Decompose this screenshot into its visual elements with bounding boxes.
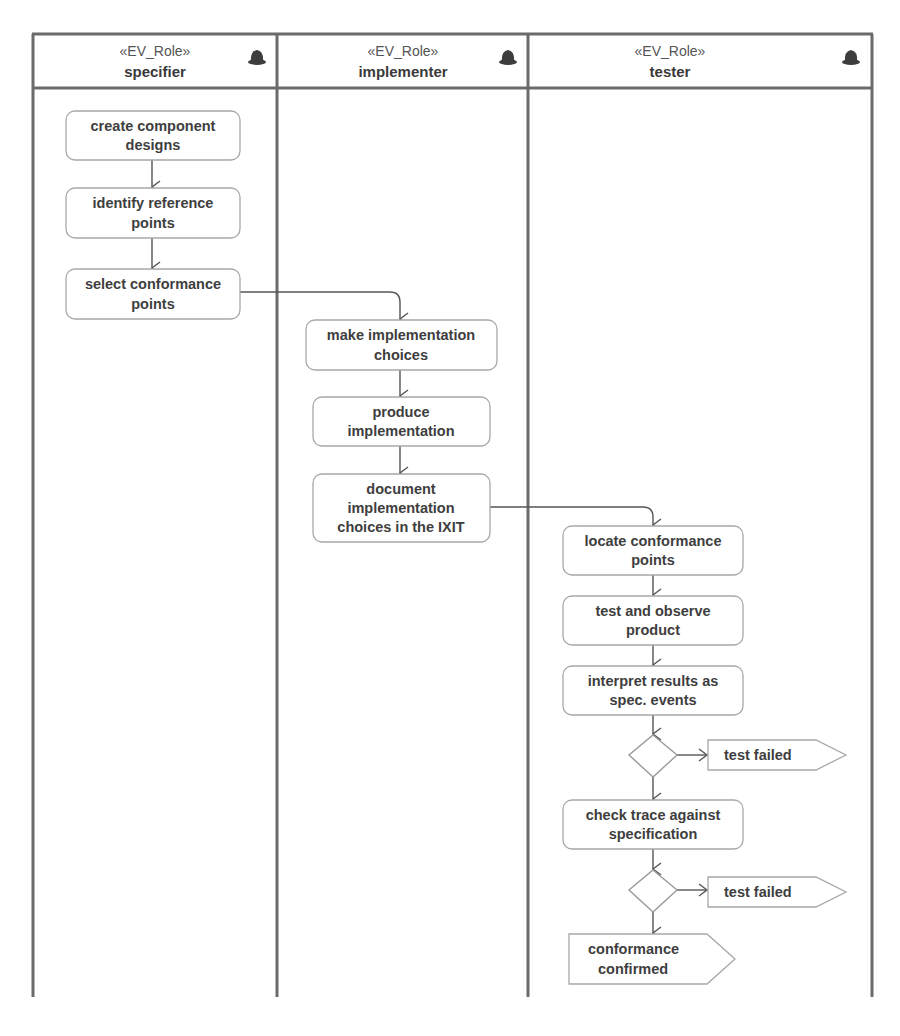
- lane-title: specifier: [124, 63, 186, 80]
- lane-header-tester: «EV_Role» tester: [635, 43, 860, 80]
- signal-conformance-confirmed[interactable]: conformance confirmed: [569, 934, 735, 984]
- svg-text:points: points: [131, 215, 175, 231]
- lane-header-implementer: «EV_Role» implementer: [358, 43, 517, 80]
- svg-text:points: points: [631, 552, 675, 568]
- lane-stereotype: «EV_Role»: [120, 43, 191, 59]
- svg-text:produce: produce: [372, 404, 429, 420]
- action-document-implementation-choices[interactable]: document implementation choices in the I…: [313, 474, 490, 542]
- svg-text:specification: specification: [609, 826, 698, 842]
- action-produce-implementation[interactable]: produce implementation: [313, 397, 490, 446]
- lane-title: implementer: [358, 63, 447, 80]
- role-hat-icon: [499, 50, 517, 65]
- svg-text:points: points: [131, 296, 175, 312]
- svg-text:interpret results as: interpret results as: [588, 673, 719, 689]
- action-create-component-designs[interactable]: create component designs: [66, 111, 240, 160]
- svg-text:spec. events: spec. events: [609, 692, 696, 708]
- lane-stereotype: «EV_Role»: [368, 43, 439, 59]
- action-locate-conformance-points[interactable]: locate conformance points: [563, 526, 743, 575]
- svg-text:identify reference: identify reference: [93, 195, 214, 211]
- svg-text:choices in the IXIT: choices in the IXIT: [337, 519, 464, 535]
- lane-title: tester: [650, 63, 691, 80]
- action-make-implementation-choices[interactable]: make implementation choices: [306, 320, 497, 370]
- svg-text:document: document: [366, 481, 435, 497]
- signal-test-failed-2[interactable]: test failed: [708, 877, 846, 907]
- svg-text:confirmed: confirmed: [598, 961, 668, 977]
- svg-text:make implementation: make implementation: [327, 327, 475, 343]
- decision-node[interactable]: [629, 735, 677, 777]
- lane-stereotype: «EV_Role»: [635, 43, 706, 59]
- svg-text:choices: choices: [374, 347, 428, 363]
- svg-text:implementation: implementation: [347, 500, 454, 516]
- svg-text:test and observe: test and observe: [595, 603, 710, 619]
- role-hat-icon: [248, 50, 266, 65]
- role-hat-icon: [842, 50, 860, 65]
- svg-text:designs: designs: [126, 137, 181, 153]
- action-check-trace-against-specification[interactable]: check trace against specification: [563, 800, 743, 849]
- svg-text:create component: create component: [91, 118, 216, 134]
- svg-text:implementation: implementation: [347, 423, 454, 439]
- svg-text:check trace against: check trace against: [586, 807, 721, 823]
- svg-text:test failed: test failed: [724, 747, 792, 763]
- signal-test-failed-1[interactable]: test failed: [708, 740, 846, 770]
- svg-text:conformance: conformance: [588, 941, 679, 957]
- svg-text:product: product: [626, 622, 680, 638]
- decision-node[interactable]: [629, 870, 677, 912]
- action-test-and-observe-product[interactable]: test and observe product: [563, 596, 743, 645]
- action-interpret-results[interactable]: interpret results as spec. events: [563, 666, 743, 715]
- svg-text:test failed: test failed: [724, 884, 792, 900]
- lane-header-specifier: «EV_Role» specifier: [120, 43, 266, 80]
- action-select-conformance-points[interactable]: select conformance points: [66, 269, 240, 319]
- svg-text:select conformance: select conformance: [85, 276, 221, 292]
- action-identify-reference-points[interactable]: identify reference points: [66, 188, 240, 238]
- svg-text:locate conformance: locate conformance: [585, 533, 722, 549]
